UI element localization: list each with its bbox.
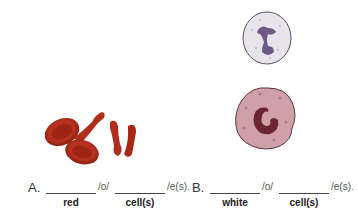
combining-vowel: /o/	[98, 181, 109, 192]
red-blood-cells-illustration	[40, 100, 150, 170]
blank-input[interactable]	[115, 193, 165, 194]
suffix: /e(s).	[331, 181, 354, 192]
combining-vowel: /o/	[262, 181, 273, 192]
fill-in-line-a: A. red /o/ cell(s) /e(s).	[28, 180, 178, 210]
blank-label: cell(s)	[279, 197, 329, 208]
item-letter: B.	[192, 180, 204, 195]
monocyte-illustration	[230, 82, 300, 154]
blank-label: white	[210, 197, 260, 208]
blank-label: red	[46, 197, 96, 208]
blank-input[interactable]	[46, 193, 96, 194]
item-letter: A.	[28, 180, 40, 195]
fill-in-line-b: B. white /o/ cell(s) /e(s).	[192, 180, 352, 210]
blank-input[interactable]	[279, 193, 329, 194]
rbc-dumbbell	[110, 121, 122, 156]
suffix: /e(s).	[167, 181, 190, 192]
neutrophil-illustration	[240, 8, 294, 68]
rbc-curved	[124, 125, 136, 157]
blank-input[interactable]	[210, 193, 260, 194]
blank-label: cell(s)	[115, 197, 165, 208]
